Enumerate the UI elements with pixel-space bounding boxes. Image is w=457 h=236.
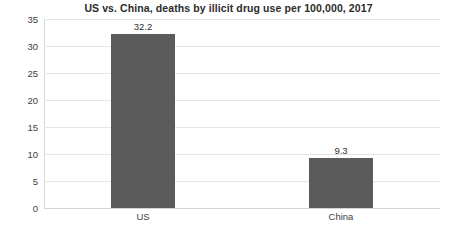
bar-group[interactable]: 32.2 bbox=[111, 19, 175, 208]
y-axis-tick-label: 15 bbox=[0, 122, 38, 133]
plot-area: 32.29.3 bbox=[44, 19, 440, 208]
y-axis-tick-label: 25 bbox=[0, 68, 38, 79]
x-axis-category-labels: USChina bbox=[44, 211, 440, 233]
bar-chart: US vs. China, deaths by illicit drug use… bbox=[0, 0, 457, 236]
y-axis-tick-label: 10 bbox=[0, 149, 38, 160]
x-axis-category-label: China bbox=[242, 211, 440, 222]
y-axis-tick-label: 0 bbox=[0, 203, 38, 214]
bar-group[interactable]: 9.3 bbox=[309, 19, 373, 208]
bars-layer: 32.29.3 bbox=[44, 19, 440, 208]
chart-title: US vs. China, deaths by illicit drug use… bbox=[0, 2, 457, 14]
gridline bbox=[44, 208, 440, 209]
y-axis-tick-labels: 05101520253035 bbox=[0, 19, 38, 208]
bar-value-label: 9.3 bbox=[309, 145, 373, 156]
bar[interactable] bbox=[309, 158, 373, 208]
y-axis-tick-label: 30 bbox=[0, 41, 38, 52]
bar-value-label: 32.2 bbox=[111, 21, 175, 32]
x-axis-category-label: US bbox=[44, 211, 242, 222]
y-axis-tick-label: 20 bbox=[0, 95, 38, 106]
bar[interactable] bbox=[111, 34, 175, 208]
y-axis-tick-label: 35 bbox=[0, 14, 38, 25]
y-axis-tick-label: 5 bbox=[0, 176, 38, 187]
